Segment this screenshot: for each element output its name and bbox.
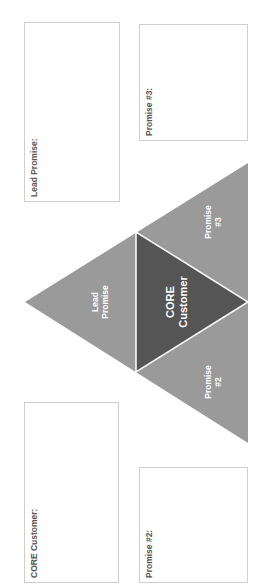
promise-3-tri-line1: Promise [203, 205, 213, 239]
promise-3-tri-line2: #3 [213, 217, 223, 227]
promise-2-tri-line2: #2 [213, 377, 223, 387]
promise-triangle-diagram: Lead Promise CORE Customer Promise #3 Pr… [0, 0, 262, 585]
core-tri-line1: CORE [164, 286, 176, 318]
promise-2-tri-line1: Promise [203, 365, 213, 399]
core-tri-line2: Customer [177, 276, 189, 328]
lead-promise-tri-line1: Lead [90, 292, 100, 312]
lead-promise-tri-line2: Promise [100, 285, 110, 319]
